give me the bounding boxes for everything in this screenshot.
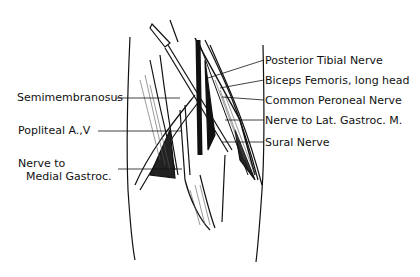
label-popliteal-av: Popliteal A.,V [18, 124, 90, 137]
label-nerve-to: Nerve to [18, 157, 65, 170]
anatomy-figure: Posterior Tibial Nerve Biceps Femoris, l… [0, 0, 420, 277]
label-biceps-femoris: Biceps Femoris, long head [265, 74, 410, 87]
label-posterior-tibial-nerve: Posterior Tibial Nerve [265, 54, 383, 67]
label-medial-gastroc: Medial Gastroc. [26, 170, 111, 183]
label-sural-nerve: Sural Nerve [265, 136, 330, 149]
popliteal-fossa-drawing [0, 0, 420, 277]
label-nerve-to-lat-gastroc: Nerve to Lat. Gastroc. M. [265, 114, 402, 127]
label-common-peroneal-nerve: Common Peroneal Nerve [265, 94, 402, 107]
label-semimembranosus: Semimembranosus [17, 91, 123, 104]
